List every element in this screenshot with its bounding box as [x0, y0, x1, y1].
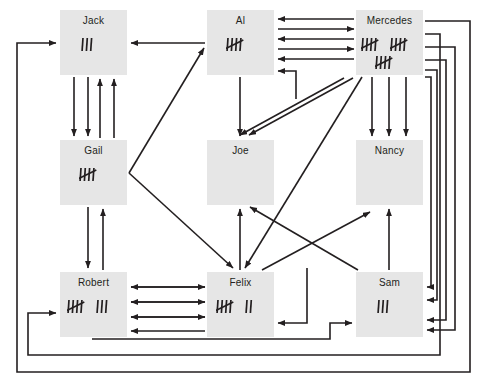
node-label: Sam — [356, 277, 423, 288]
edge-sam-joe — [250, 207, 358, 270]
edge-felix-nancy — [262, 212, 370, 270]
edge-mercedes-joe — [249, 78, 353, 135]
tally-marks — [60, 299, 127, 317]
node-al[interactable]: Al — [207, 10, 274, 75]
node-gail[interactable]: Gail — [60, 140, 127, 205]
node-label: Robert — [60, 277, 127, 288]
node-label: Joe — [207, 145, 274, 156]
node-label: Nancy — [356, 145, 423, 156]
edge-mercedes-sam-routed — [425, 77, 431, 287]
diagram-canvas: Jack Al Mercedes Gail Joe Nancy Robert F… — [0, 0, 483, 387]
edge-mercedes-sam-routed — [425, 60, 446, 320]
tally-marks — [356, 37, 423, 73]
node-label: Jack — [60, 15, 127, 26]
node-felix[interactable]: Felix — [207, 272, 274, 337]
tally-marks — [207, 37, 274, 55]
node-label: Al — [207, 15, 274, 26]
node-nancy[interactable]: Nancy — [356, 140, 423, 205]
edge-sam-felix-routed — [278, 268, 307, 323]
node-label: Mercedes — [356, 15, 423, 26]
node-jack[interactable]: Jack — [60, 10, 127, 75]
node-label: Felix — [207, 277, 274, 288]
tally-marks — [60, 167, 127, 185]
tally-marks — [207, 299, 274, 317]
node-sam[interactable]: Sam — [356, 272, 423, 337]
tally-marks — [356, 299, 423, 317]
edge-mercedes-joe — [240, 78, 344, 135]
node-joe[interactable]: Joe — [207, 140, 274, 205]
node-mercedes[interactable]: Mercedes — [356, 10, 423, 75]
node-robert[interactable]: Robert — [60, 272, 127, 337]
tally-marks — [60, 37, 127, 55]
edge-mercedes-al-routed — [278, 71, 296, 99]
edge-gail-al — [129, 48, 204, 173]
node-label: Gail — [60, 145, 127, 156]
